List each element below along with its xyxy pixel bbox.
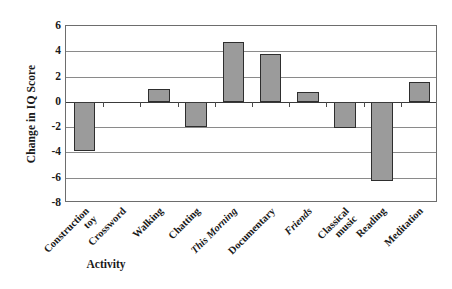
bar [223, 42, 245, 101]
x-axis-title: Activity [36, 258, 176, 270]
x-axis-tick [215, 102, 216, 107]
bar-chart: Change in IQ Score 6420-2-4-6-8 Construc… [0, 0, 452, 289]
bar [297, 92, 319, 102]
bottom-caption [8, 283, 248, 289]
bar [148, 89, 170, 102]
bar [260, 54, 282, 102]
x-axis-tick [326, 102, 327, 107]
plot-area [65, 25, 437, 202]
bar [334, 102, 356, 129]
x-axis-tick [401, 102, 402, 107]
bar [74, 102, 96, 151]
bars [66, 26, 436, 201]
x-axis-tick [289, 102, 290, 107]
bar [409, 82, 431, 102]
x-axis-tick [178, 102, 179, 107]
x-axis-tick [364, 102, 365, 107]
bar [185, 102, 207, 127]
zero-line [66, 102, 436, 103]
x-axis-tick [140, 102, 141, 107]
x-axis-tick [103, 102, 104, 107]
x-axis-tick [252, 102, 253, 107]
bar [371, 102, 393, 182]
